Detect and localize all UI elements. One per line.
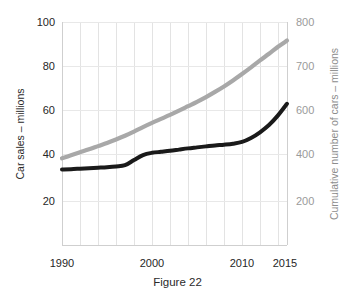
series-layer <box>62 41 287 170</box>
line-chart: 100 80 60 40 20 800 700 600 400 200 1990… <box>0 0 355 299</box>
y-tick-label: 40 <box>43 148 55 160</box>
x-axis-ticks: 1990 2000 2010 2015 <box>50 257 297 269</box>
y-tick-label: 20 <box>43 195 55 207</box>
series-line-cumulative-cars <box>62 41 287 159</box>
y-tick-label: 100 <box>37 16 55 28</box>
figure-caption: Figure 22 <box>0 276 355 288</box>
y-axis-left-title: Car sales – millions <box>14 88 26 179</box>
x-tick-label: 2010 <box>230 257 254 269</box>
figure-container: 100 80 60 40 20 800 700 600 400 200 1990… <box>0 0 355 299</box>
y2-tick-label: 400 <box>296 148 314 160</box>
x-tick-label: 1990 <box>50 257 74 269</box>
y-tick-label: 60 <box>43 104 55 116</box>
vertical-gridlines <box>62 22 287 245</box>
x-tick-label: 2000 <box>140 257 164 269</box>
y-axis-right-title: Cumulative number of cars – millions <box>328 48 340 220</box>
y-tick-label: 80 <box>43 60 55 72</box>
y2-tick-label: 800 <box>296 16 314 28</box>
y2-tick-label: 200 <box>296 195 314 207</box>
y2-tick-label: 700 <box>296 60 314 72</box>
x-tick-label: 2015 <box>273 257 297 269</box>
horizontal-gridlines <box>62 22 287 245</box>
y-axis-right-ticks: 800 700 600 400 200 <box>296 16 314 207</box>
y-axis-left-ticks: 100 80 60 40 20 <box>37 16 55 207</box>
y2-tick-label: 600 <box>296 104 314 116</box>
